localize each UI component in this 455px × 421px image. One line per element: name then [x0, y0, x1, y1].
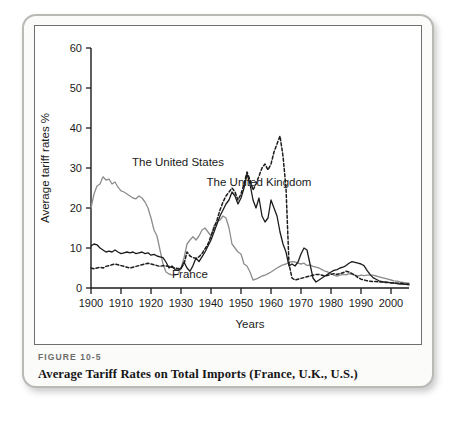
- y-axis-tick-label: 30: [70, 162, 82, 174]
- y-axis-tick-label: 10: [70, 242, 82, 254]
- x-axis-tick-label: 1990: [349, 297, 373, 309]
- figure-number: FIGURE 10-5: [38, 352, 418, 362]
- x-axis-tick-label: 1900: [79, 297, 103, 309]
- series-annotation-label: The United States: [132, 156, 224, 168]
- x-axis-tick-label: 2000: [379, 297, 403, 309]
- plot-frame: 0102030405060190019101920193019401950196…: [34, 25, 422, 345]
- series-line: [91, 174, 409, 285]
- x-axis-tick-label: 1920: [139, 297, 163, 309]
- x-axis-tick-label: 1970: [289, 297, 313, 309]
- y-axis-title: Average tariff rates %: [39, 113, 51, 223]
- figure-caption: FIGURE 10-5 Average Tariff Rates on Tota…: [38, 352, 418, 382]
- x-axis-tick-label: 1940: [199, 297, 223, 309]
- y-axis-tick-label: 60: [70, 42, 82, 54]
- y-axis-tick-label: 20: [70, 202, 82, 214]
- figure-card: 0102030405060190019101920193019401950196…: [22, 14, 434, 388]
- y-axis-tick-label: 40: [70, 122, 82, 134]
- figure-title: Average Tariff Rates on Total Imports (F…: [38, 367, 418, 382]
- x-axis-tick-label: 1910: [109, 297, 133, 309]
- x-axis-tick-label: 1930: [169, 297, 193, 309]
- series-line: [91, 177, 409, 283]
- x-axis-title: Years: [236, 318, 265, 330]
- x-axis-tick-label: 1950: [229, 297, 253, 309]
- x-axis-tick-label: 1960: [259, 297, 283, 309]
- y-axis-tick-label: 50: [70, 82, 82, 94]
- figure-page: 0102030405060190019101920193019401950196…: [0, 0, 455, 421]
- series-annotation-label: The United Kingdom: [207, 176, 312, 188]
- series-annotation-label: France: [172, 268, 208, 280]
- x-axis-tick-label: 1980: [319, 297, 343, 309]
- y-axis-tick-label: 0: [76, 282, 82, 294]
- tariff-rates-line-chart: 0102030405060190019101920193019401950196…: [35, 26, 421, 344]
